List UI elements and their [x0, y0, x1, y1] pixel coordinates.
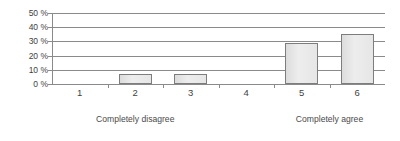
bar	[341, 34, 374, 84]
y-axis-line	[52, 13, 53, 84]
x-axis-labels: 123456	[52, 88, 385, 104]
x-axis-tick-label: 1	[77, 88, 82, 98]
y-tick-mark	[48, 13, 52, 14]
x-axis-tick-label: 6	[355, 88, 360, 98]
y-axis-labels: 0 %10 %20 %30 %40 %50 %	[8, 0, 48, 141]
gridline	[52, 27, 385, 28]
bar	[119, 74, 152, 84]
x-axis-tick-label: 5	[299, 88, 304, 98]
y-axis-tick-label: 50 %	[29, 9, 48, 18]
y-axis-tick-label: 40 %	[29, 23, 48, 32]
gridline	[52, 13, 385, 14]
y-tick-mark	[48, 70, 52, 71]
scale-anchor-label: Completely disagree	[96, 115, 174, 124]
scale-anchor-labels: Completely disagreeCompletely agree	[52, 115, 400, 129]
gridline	[52, 56, 385, 57]
bar	[285, 43, 318, 84]
x-axis-tick-label: 4	[244, 88, 249, 98]
bar	[174, 74, 207, 84]
y-axis-tick-label: 0 %	[33, 80, 48, 89]
y-axis-tick-label: 10 %	[29, 66, 48, 75]
y-tick-mark	[48, 84, 52, 85]
y-tick-mark	[48, 27, 52, 28]
x-axis-tick-label: 2	[133, 88, 138, 98]
bar-chart: 0 %10 %20 %30 %40 %50 % 123456 Completel…	[0, 0, 400, 141]
scale-anchor-label: Completely agree	[296, 115, 363, 124]
x-axis-tick-label: 3	[188, 88, 193, 98]
gridline	[52, 70, 385, 71]
gridline	[52, 41, 385, 42]
y-tick-mark	[48, 41, 52, 42]
plot-area	[52, 13, 385, 84]
y-axis-tick-label: 30 %	[29, 37, 48, 46]
y-tick-mark	[48, 56, 52, 57]
y-axis-tick-label: 20 %	[29, 51, 48, 60]
